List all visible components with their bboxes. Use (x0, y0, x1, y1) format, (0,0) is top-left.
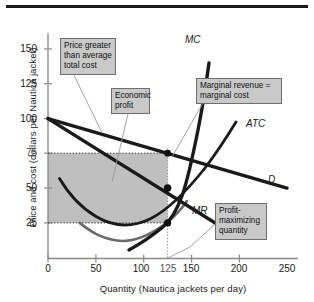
curve-label-mr: MR (192, 205, 208, 216)
curve-label-d: D (268, 174, 275, 185)
marker-atc-point (164, 184, 172, 192)
callout-economic-profit: Economic profit (111, 88, 150, 114)
y-tick-label-75: 75 (7, 147, 37, 158)
marker-mr-mc-point (164, 219, 171, 226)
monopoly-profit-figure: Price and cost (dollars per Nautica jack… (0, 0, 314, 302)
plot-canvas (0, 0, 314, 302)
x-tick-label-200: 200 (224, 263, 254, 274)
y-tick-label-100: 100 (7, 113, 37, 124)
callout-price-greater-than-atc: Price greater than average total cost (60, 38, 116, 75)
y-tick-label-125: 125 (7, 78, 37, 89)
callout-profit-maximizing-quantity: Profit-maximizing quantity (215, 203, 267, 240)
x-axis-title: Quantity (Nautica jackets per day) (48, 283, 298, 294)
x-tick-label-250: 250 (272, 263, 302, 274)
x-tick-label-100: 100 (126, 263, 156, 274)
x-tick-label-50: 50 (81, 263, 111, 274)
y-tick-label-25: 25 (7, 217, 37, 228)
marker-price-point (164, 150, 171, 157)
x-tick-label-150: 150 (176, 263, 206, 274)
curve-label-mc: MC (185, 34, 201, 45)
y-tick-label-50: 50 (7, 182, 37, 193)
y-tick-label-150: 150 (7, 43, 37, 54)
callout-marginal-revenue-equals-marginal-cost: Marginal revenue = marginal cost (196, 78, 282, 104)
x-tick-label-0: 0 (33, 263, 63, 274)
leader-price-greater (72, 71, 102, 133)
leader-profit-max (168, 225, 214, 258)
curve-label-atc: ATC (246, 118, 265, 129)
